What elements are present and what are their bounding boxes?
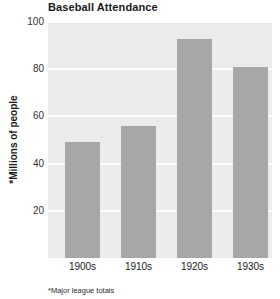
chart-title: Baseball Attendance	[48, 1, 158, 13]
bar	[121, 126, 156, 258]
x-tick-label: 1920s	[165, 261, 225, 273]
y-tick-label: 40	[4, 159, 44, 169]
y-tick-label: 60	[4, 111, 44, 121]
gridline	[48, 21, 272, 23]
bar	[65, 142, 100, 258]
y-axis-tick-labels: 20406080100	[0, 22, 44, 258]
chart-footnote: *Major league totals	[48, 286, 114, 295]
baseball-attendance-chart: Baseball Attendance *Millions of people …	[0, 0, 279, 299]
x-axis-tick-labels: 1900s1910s1920s1930s	[48, 261, 272, 275]
x-tick-label: 1930s	[221, 261, 280, 273]
x-tick-label: 1910s	[109, 261, 169, 273]
y-tick-label: 20	[4, 206, 44, 216]
plot-area	[48, 22, 272, 258]
x-tick-label: 1900s	[53, 261, 113, 273]
y-tick-label: 80	[4, 64, 44, 74]
y-tick-label: 100	[4, 17, 44, 27]
bar	[177, 39, 212, 258]
bar	[233, 67, 268, 258]
